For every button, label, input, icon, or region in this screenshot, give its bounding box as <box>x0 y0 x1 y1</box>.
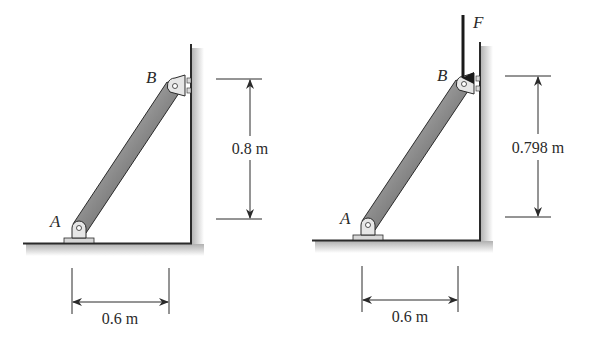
pin-a-icon <box>77 226 82 231</box>
figure-right: F B A 0.798 m 0.6 m <box>312 13 565 325</box>
wall-shadow <box>481 46 493 246</box>
pin-b-icon <box>462 82 467 87</box>
wall-shadow <box>192 48 204 248</box>
label-a: A <box>339 209 351 228</box>
dimension-horizontal <box>72 268 169 314</box>
dimension-horizontal-label: 0.6 m <box>102 310 139 327</box>
label-force: F <box>472 13 484 32</box>
pin-b-icon <box>173 84 178 89</box>
floor-shadow <box>315 241 493 253</box>
diagram-canvas: A B 0.8 m 0.6 m <box>0 0 589 342</box>
bar-ab <box>73 82 181 233</box>
dimension-vertical-label: 0.798 m <box>512 139 565 156</box>
dimension-vertical-label: 0.8 m <box>232 140 269 157</box>
label-b: B <box>437 66 448 85</box>
label-b: B <box>146 68 157 87</box>
dimension-horizontal-label: 0.6 m <box>392 308 429 325</box>
bar-ab <box>362 80 470 230</box>
floor-shadow <box>26 244 204 256</box>
pin-a-icon <box>366 223 371 228</box>
label-a: A <box>49 212 61 231</box>
dimension-horizontal <box>362 266 458 312</box>
figure-left: A B 0.8 m 0.6 m <box>23 44 269 327</box>
